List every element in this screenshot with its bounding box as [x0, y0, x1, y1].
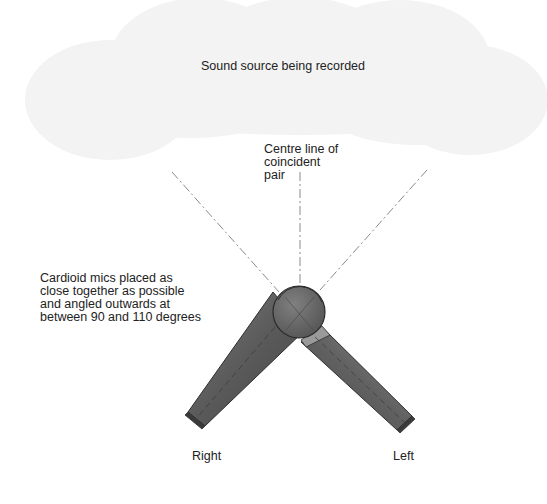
- microphone-capsules: [273, 286, 325, 338]
- right-mic-label: Right: [192, 450, 221, 463]
- cardioid-mics-label: Cardioid mics placed as close together a…: [40, 272, 201, 324]
- sound-source-label: Sound source being recorded: [201, 60, 365, 73]
- left-mic-axis-line: [320, 170, 427, 290]
- left-microphone: [301, 326, 415, 433]
- axis-lines: [172, 170, 427, 300]
- centre-line-label: Centre line of coincident pair: [264, 143, 338, 182]
- sound-source-cloud: [25, 0, 547, 160]
- left-mic-label: Left: [393, 450, 414, 463]
- coincident-pair-diagram: [0, 0, 547, 504]
